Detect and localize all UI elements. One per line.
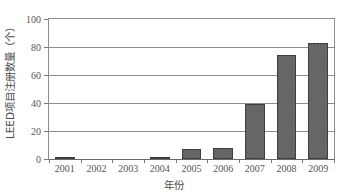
bar <box>55 157 75 159</box>
y-axis-tick-labels: 020406080100 <box>0 0 48 193</box>
bar-slot <box>239 19 271 159</box>
bar-slot <box>207 19 239 159</box>
bar <box>277 55 297 159</box>
x-axis-tick-labels: 200120022003200420052006200720082009 <box>49 163 334 177</box>
bar <box>245 104 265 159</box>
bar-slot <box>49 19 81 159</box>
bar <box>213 148 233 159</box>
bar-slot <box>176 19 208 159</box>
bars-layer <box>49 19 334 159</box>
y-axis-tick-label: 40 <box>31 98 41 109</box>
x-axis-tick-label: 2009 <box>298 163 338 174</box>
bar-slot <box>144 19 176 159</box>
bar-slot <box>302 19 334 159</box>
bar-chart-figure: LEED项目注册数量（个） 020406080100 2001200220032… <box>0 0 347 193</box>
bar <box>150 157 170 159</box>
y-axis-tick-label: 0 <box>36 154 41 165</box>
y-axis-tick-label: 60 <box>31 70 41 81</box>
bar-slot <box>81 19 113 159</box>
bar <box>308 43 328 159</box>
x-axis-title: 年份 <box>0 177 347 192</box>
bar-slot <box>112 19 144 159</box>
bar-slot <box>271 19 303 159</box>
y-axis-tick-label: 20 <box>31 126 41 137</box>
y-axis-tick-label: 80 <box>31 42 41 53</box>
bar <box>182 149 202 159</box>
y-axis-tick-label: 100 <box>26 14 41 25</box>
